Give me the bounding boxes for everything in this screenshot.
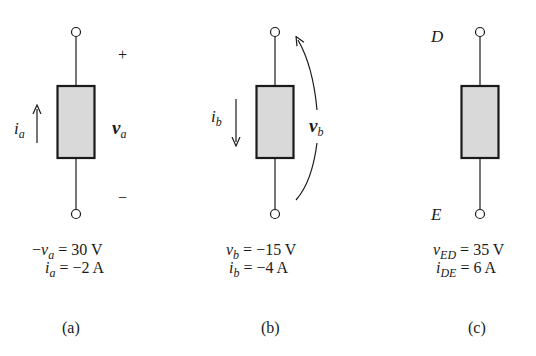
circuit-element-b [257, 86, 294, 158]
circuit-diagram [0, 0, 536, 356]
caption-b: (b) [261, 320, 280, 336]
circuit-element-a [58, 86, 95, 158]
voltage-label-a: va [112, 118, 126, 137]
terminal-d [476, 28, 485, 37]
current-label-b: ib [211, 108, 222, 125]
circuit-element-c [462, 86, 499, 158]
caption-a: (a) [62, 320, 80, 336]
panel-c-element [462, 28, 499, 219]
terminal-label-d: D [431, 28, 443, 45]
equation-c-1: vED = 35 V [433, 241, 504, 260]
voltage-arc-lower [296, 143, 317, 200]
panel-b-element [236, 28, 317, 219]
equation-b-2: ib = −4 A [229, 259, 288, 278]
terminal-label-e: E [431, 206, 441, 223]
current-label-a: ia [14, 120, 25, 137]
plus-sign-a: + [118, 47, 127, 63]
equation-a-2: ia = −2 A [45, 259, 104, 278]
equation-b-1: vb = −15 V [226, 241, 296, 260]
equation-a-1: −va = 30 V [32, 241, 102, 260]
voltage-label-b: vb [309, 116, 323, 135]
minus-sign-a: − [118, 190, 127, 206]
equation-c-2: iDE = 6 A [436, 259, 496, 278]
voltage-arc-arrow-icon [298, 40, 317, 110]
panel-a-element [37, 28, 95, 219]
caption-c: (c) [468, 320, 486, 336]
terminal-bottom-a [72, 210, 81, 219]
terminal-top-a [72, 28, 81, 37]
terminal-e [476, 210, 485, 219]
terminal-bottom-b [271, 210, 280, 219]
terminal-top-b [271, 28, 280, 37]
